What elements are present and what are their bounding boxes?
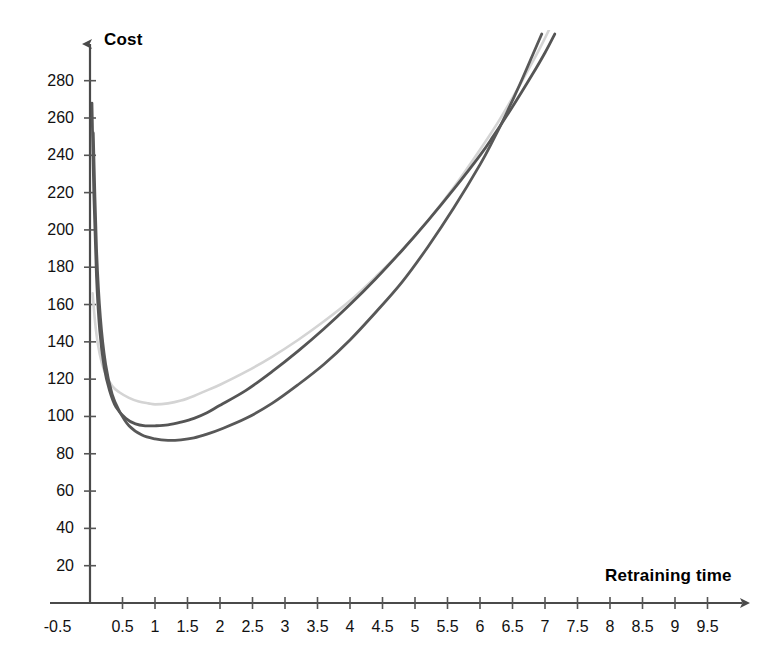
y-tick-label: 260	[0, 109, 74, 127]
plot-area	[0, 0, 764, 659]
y-tick-label: 140	[0, 333, 74, 351]
x-tick-label: 7.5	[566, 618, 588, 636]
x-tick-label: 6.5	[501, 618, 523, 636]
data-series	[92, 25, 555, 441]
y-tick-label: 60	[0, 482, 74, 500]
x-tick-label: 9	[671, 618, 680, 636]
y-tick-label: 280	[0, 72, 74, 90]
x-tick-label: 3.5	[306, 618, 328, 636]
y-tick-label: 40	[0, 519, 74, 537]
series-line-light-curve	[93, 25, 552, 405]
y-tick-label: 180	[0, 258, 74, 276]
x-tick-label: 0.5	[111, 618, 133, 636]
x-tick-label: 1	[151, 618, 160, 636]
series-line-low-dark-curve	[93, 34, 542, 440]
axes	[50, 44, 742, 603]
x-tick-label: 4.5	[371, 618, 393, 636]
x-tick-label: 5.5	[436, 618, 458, 636]
y-tick-label: 160	[0, 296, 74, 314]
y-tick-label: 200	[0, 221, 74, 239]
x-tick-label: 3	[281, 618, 290, 636]
x-tick-label: 2	[216, 618, 225, 636]
x-tick-label: -0.5	[44, 618, 72, 636]
x-tick-label: 7	[541, 618, 550, 636]
x-tick-label: 9.5	[696, 618, 718, 636]
x-tick-label: 2.5	[241, 618, 263, 636]
y-tick-label: 20	[0, 557, 74, 575]
x-tick-label: 1.5	[176, 618, 198, 636]
y-tick-label: 80	[0, 445, 74, 463]
y-axis-title: Cost	[104, 30, 143, 50]
x-tick-label: 8.5	[631, 618, 653, 636]
x-tick-label: 5	[411, 618, 420, 636]
y-tick-label: 120	[0, 370, 74, 388]
x-tick-label: 6	[476, 618, 485, 636]
y-tick-label: 100	[0, 407, 74, 425]
y-tick-label: 220	[0, 184, 74, 202]
x-tick-label: 4	[346, 618, 355, 636]
cost-vs-retraining-time-chart: Cost Retraining time 2040608010012014016…	[0, 0, 764, 659]
x-tick-label: 8	[606, 618, 615, 636]
y-tick-label: 240	[0, 146, 74, 164]
series-line-mid-dark-curve	[92, 34, 555, 426]
x-axis-title: Retraining time	[605, 566, 732, 586]
